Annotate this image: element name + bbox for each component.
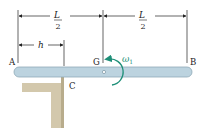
label-2-left: 2 xyxy=(55,22,60,31)
label-2-right: 2 xyxy=(140,22,145,31)
label-c: C xyxy=(69,81,76,91)
label-l-right: L xyxy=(138,10,145,20)
label-g: G xyxy=(93,57,100,67)
label-l-left: L xyxy=(53,10,60,20)
center-of-mass-point xyxy=(102,70,105,73)
extension-lines xyxy=(18,10,187,66)
label-omega: ω1 xyxy=(122,54,133,65)
corner-support xyxy=(22,77,64,128)
label-h: h xyxy=(38,40,44,50)
label-a: A xyxy=(8,57,16,67)
rigid-body-diagram: L 2 L 2 h A G B C ω1 xyxy=(0,0,202,134)
label-b: B xyxy=(190,57,196,67)
